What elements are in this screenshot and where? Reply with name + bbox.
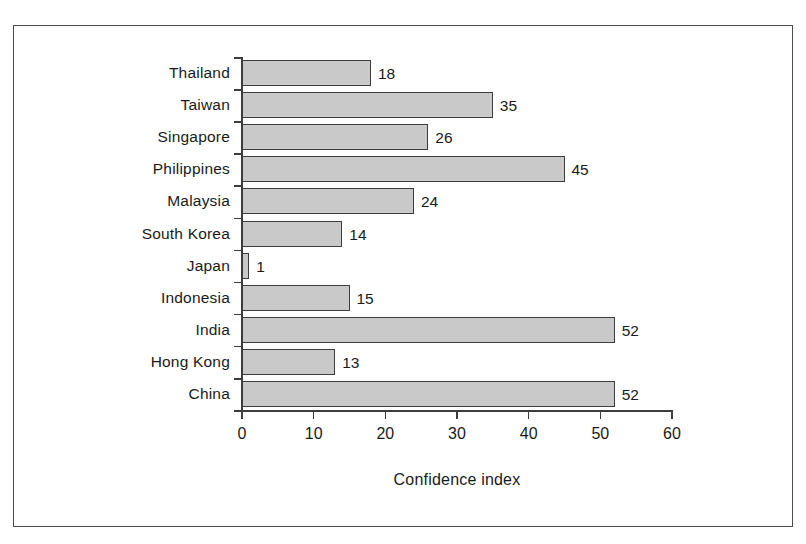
bar[interactable] bbox=[242, 60, 371, 86]
bar-value-label: 1 bbox=[256, 259, 265, 275]
category-label: Hong Kong bbox=[30, 354, 230, 370]
category-label-row: Philippines bbox=[30, 161, 232, 177]
y-axis-tick bbox=[234, 89, 242, 91]
category-label: Singapore bbox=[30, 129, 230, 145]
y-axis-tick bbox=[234, 153, 242, 155]
y-axis-tick bbox=[234, 378, 242, 380]
figure-canvas: Confidence index 18Thailand35Taiwan26Sin… bbox=[0, 0, 806, 544]
category-label: China bbox=[30, 386, 230, 402]
x-axis-title: Confidence index bbox=[257, 472, 657, 488]
bar-value-label: 13 bbox=[342, 355, 359, 371]
bar-value-label: 14 bbox=[349, 227, 366, 243]
category-label-row: Japan bbox=[30, 258, 232, 274]
y-axis-tick bbox=[234, 218, 242, 220]
category-label-row: Taiwan bbox=[30, 97, 232, 113]
category-label-row: India bbox=[30, 322, 232, 338]
category-label: Taiwan bbox=[30, 97, 230, 113]
y-axis-tick bbox=[234, 346, 242, 348]
bar-value-label: 52 bbox=[622, 387, 639, 403]
bar[interactable] bbox=[242, 188, 414, 214]
category-label-row: Malaysia bbox=[30, 193, 232, 209]
category-label: Indonesia bbox=[30, 290, 230, 306]
bar-value-label: 24 bbox=[421, 194, 438, 210]
bar[interactable] bbox=[242, 156, 565, 182]
bar-value-label: 52 bbox=[622, 323, 639, 339]
category-label-row: South Korea bbox=[30, 226, 232, 242]
x-axis-tick-label: 20 bbox=[355, 426, 415, 442]
category-label-row: Singapore bbox=[30, 129, 232, 145]
y-axis-tick bbox=[234, 185, 242, 187]
x-axis-tick-label: 0 bbox=[212, 426, 272, 442]
category-label: Philippines bbox=[30, 161, 230, 177]
bar[interactable] bbox=[242, 381, 615, 407]
x-axis-tick-label: 30 bbox=[427, 426, 487, 442]
x-axis-tick bbox=[528, 410, 530, 419]
category-label: India bbox=[30, 322, 230, 338]
category-label-row: Indonesia bbox=[30, 290, 232, 306]
y-axis-tick bbox=[234, 282, 242, 284]
y-axis-tick bbox=[234, 121, 242, 123]
category-label-row: Hong Kong bbox=[30, 354, 232, 370]
category-label: South Korea bbox=[30, 226, 230, 242]
bar-value-label: 35 bbox=[500, 98, 517, 114]
category-label-row: China bbox=[30, 386, 232, 402]
y-axis-tick bbox=[234, 250, 242, 252]
bar[interactable] bbox=[242, 124, 428, 150]
x-axis-tick-label: 40 bbox=[499, 426, 559, 442]
bar-value-label: 15 bbox=[357, 291, 374, 307]
category-label: Thailand bbox=[30, 65, 230, 81]
category-label-row: Thailand bbox=[30, 65, 232, 81]
y-axis-tick bbox=[234, 314, 242, 316]
x-axis-tick bbox=[456, 410, 458, 419]
bar-value-label: 18 bbox=[378, 66, 395, 82]
x-axis-tick-label: 50 bbox=[570, 426, 630, 442]
bar[interactable] bbox=[242, 349, 335, 375]
x-axis-tick bbox=[385, 410, 387, 419]
bar[interactable] bbox=[242, 285, 350, 311]
bar[interactable] bbox=[242, 253, 249, 279]
x-axis-tick bbox=[313, 410, 315, 419]
bar-value-label: 26 bbox=[435, 130, 452, 146]
bar[interactable] bbox=[242, 317, 615, 343]
bar[interactable] bbox=[242, 92, 493, 118]
category-label: Malaysia bbox=[30, 193, 230, 209]
bar-chart: Confidence index 18Thailand35Taiwan26Sin… bbox=[0, 0, 806, 544]
x-axis-tick bbox=[241, 410, 243, 419]
category-label: Japan bbox=[30, 258, 230, 274]
x-axis-tick-label: 60 bbox=[642, 426, 702, 442]
y-axis-tick bbox=[234, 57, 242, 59]
bar-value-label: 45 bbox=[572, 162, 589, 178]
x-axis-tick bbox=[671, 410, 673, 419]
x-axis-tick-label: 10 bbox=[284, 426, 344, 442]
x-axis-tick bbox=[600, 410, 602, 419]
bar[interactable] bbox=[242, 221, 342, 247]
